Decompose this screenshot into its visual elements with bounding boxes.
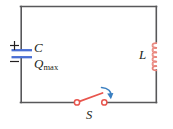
charge-subscript: max (43, 62, 58, 72)
inductor-label: L (139, 48, 146, 61)
charge-symbol: Q (34, 56, 43, 71)
switch-contact-right[interactable] (102, 100, 107, 105)
lc-circuit-figure: C Qmax L S (0, 0, 173, 129)
capacitor-charge-label: Qmax (34, 57, 58, 72)
capacitor-minus-sign-icon (9, 56, 20, 67)
switch-close-arrowhead (107, 93, 113, 99)
switch-label: S (86, 109, 92, 122)
capacitor-plus-sign-icon (9, 40, 20, 51)
switch-contact-left[interactable] (74, 100, 79, 105)
switch-lever[interactable] (78, 93, 103, 102)
inductor-coil (152, 43, 156, 70)
capacitor-label: C (34, 41, 43, 54)
